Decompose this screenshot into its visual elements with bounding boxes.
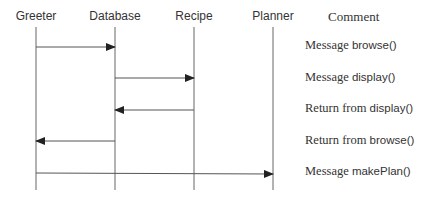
lifeline-label-planner: Planner — [252, 9, 293, 23]
comment-message-browse: Message browse() — [305, 38, 397, 53]
comment-code: browse() — [370, 134, 415, 146]
comment-code: display() — [352, 71, 395, 83]
messages — [36, 47, 273, 174]
comment-header: Comment — [328, 9, 379, 25]
comment-return-browse: Return from browse() — [305, 133, 414, 148]
message-arrow-makeplan — [36, 173, 273, 174]
comment-prefix: Message — [305, 164, 349, 178]
lifeline-label-recipe: Recipe — [175, 9, 212, 23]
comment-message-display: Message display() — [305, 70, 395, 85]
comment-code: browse() — [352, 39, 397, 51]
comment-code: display() — [370, 102, 413, 114]
lifeline-label-greeter: Greeter — [16, 9, 57, 23]
comment-prefix: Return from — [305, 133, 366, 147]
comment-code: makePlan() — [352, 165, 411, 177]
comment-message-makeplan: Message makePlan() — [305, 164, 411, 179]
lifeline-label-database: Database — [89, 9, 140, 23]
comment-prefix: Message — [305, 38, 349, 52]
comment-return-display: Return from display() — [305, 101, 413, 116]
comment-prefix: Return from — [305, 101, 366, 115]
comment-prefix: Message — [305, 70, 349, 84]
lifelines — [36, 27, 273, 190]
